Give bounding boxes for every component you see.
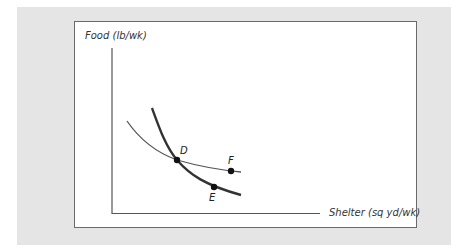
thick-indifference-curve	[152, 108, 241, 195]
point-f-label: F	[228, 155, 234, 166]
point-e-marker	[211, 184, 217, 190]
point-f-marker	[228, 168, 234, 174]
y-axis-label: Food (lb/wk)	[85, 30, 147, 41]
point-d-marker	[174, 157, 180, 163]
point-d-label: D	[180, 145, 188, 156]
point-e-label: E	[209, 192, 215, 203]
x-axis-label: Shelter (sq yd/wk)	[329, 207, 420, 218]
